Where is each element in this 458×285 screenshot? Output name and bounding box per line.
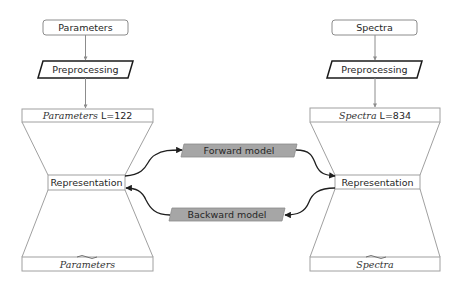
- backward-in-arrow: [285, 188, 335, 215]
- preprocessing-label: Preprocessing: [52, 64, 118, 75]
- hourglass-edge: [22, 190, 48, 257]
- spectra-input-label: Spectra: [356, 22, 393, 33]
- hourglass-edge: [310, 122, 335, 175]
- hourglass-edge: [420, 122, 440, 175]
- hourglass-edge: [22, 122, 48, 175]
- left-column: Parameters Preprocessing Parameters L=12…: [22, 20, 153, 271]
- parameters-top-bar-label: Parameters L=122: [42, 110, 133, 121]
- diagram-canvas: Parameters Preprocessing Parameters L=12…: [0, 0, 458, 285]
- hourglass-edge: [310, 189, 335, 257]
- right-column: Spectra Preprocessing Spectra L=834 Repr…: [310, 20, 440, 271]
- hourglass-edge: [125, 122, 153, 175]
- parameters-input-label: Parameters: [58, 22, 112, 33]
- hourglass-edge: [420, 189, 440, 257]
- forward-in-arrow: [125, 150, 182, 176]
- preprocessing-label: Preprocessing: [341, 64, 407, 75]
- backward-out-arrow: [126, 188, 170, 215]
- hourglass-edge: [125, 190, 153, 257]
- backward-model-label: Backward model: [187, 209, 266, 220]
- forward-model-label: Forward model: [204, 145, 275, 156]
- models: Forward model Backward model: [125, 144, 335, 221]
- representation-label-right: Representation: [341, 177, 413, 188]
- spectra-top-bar-label: Spectra L=834: [339, 110, 411, 121]
- spectra-bottom-bar-label: Spectra: [356, 259, 394, 270]
- representation-label-left: Representation: [50, 177, 122, 188]
- parameters-bottom-bar-label: Parameters: [59, 259, 115, 270]
